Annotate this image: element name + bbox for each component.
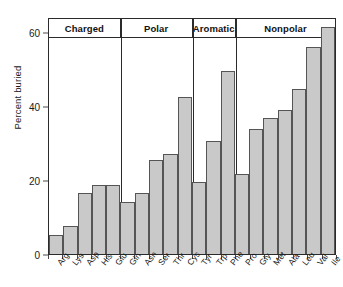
bar-trp: [206, 141, 220, 254]
x-tick-label-val: Val: [315, 252, 330, 267]
bar-cell-trp: [206, 19, 220, 254]
bar-chart-figure: Percent buried 0204060 ChargedPolarAroma…: [0, 0, 343, 287]
bar-tyr: [192, 182, 206, 254]
bar-thr: [163, 154, 177, 254]
bar-cell-gln: [120, 19, 134, 254]
bar-cell-met: [263, 19, 277, 254]
bar-cell-arg: [49, 19, 63, 254]
plot-area: ChargedPolarAromaticNonpolar: [48, 18, 336, 255]
bar-cell-thr: [163, 19, 177, 254]
bar-leu: [292, 89, 306, 254]
bar-cell-gly: [249, 19, 263, 254]
x-axis-labels: ArgLysAspHisGluGlnAsnSerThrCysTyrTrpPheP…: [48, 255, 336, 287]
bar-cell-ala: [278, 19, 292, 254]
bar-cell-phe: [221, 19, 235, 254]
x-tick-label-ile: Ile: [329, 254, 342, 267]
bar-gln: [120, 202, 134, 254]
bar-ala: [278, 110, 292, 254]
y-tick-label-20: 20: [29, 175, 40, 186]
bar-cell-tyr: [192, 19, 206, 254]
bar-cell-ser: [149, 19, 163, 254]
bar-cys: [178, 97, 192, 254]
bar-series: [49, 19, 335, 254]
bar-cell-pro: [235, 19, 249, 254]
bar-gly: [249, 129, 263, 254]
y-axis-ticks: 0204060: [0, 0, 48, 287]
y-tick-label-60: 60: [29, 27, 40, 38]
bar-cell-ile: [321, 19, 335, 254]
bar-asp: [78, 193, 92, 254]
bar-cell-leu: [292, 19, 306, 254]
bar-phe: [221, 71, 235, 254]
bar-val: [306, 47, 320, 254]
bar-pro: [235, 174, 249, 254]
bar-ile: [321, 27, 335, 254]
bar-cell-glu: [106, 19, 120, 254]
bar-met: [263, 118, 277, 254]
bar-cell-asp: [78, 19, 92, 254]
x-tick-mark-0: [48, 255, 49, 259]
y-tick-label-0: 0: [34, 250, 40, 261]
bar-cell-asn: [135, 19, 149, 254]
bar-cell-his: [92, 19, 106, 254]
y-tick-label-40: 40: [29, 101, 40, 112]
bar-cell-lys: [63, 19, 77, 254]
bar-cell-cys: [178, 19, 192, 254]
bar-lys: [63, 226, 77, 254]
bar-glu: [106, 185, 120, 254]
bar-asn: [135, 193, 149, 254]
bar-ser: [149, 160, 163, 254]
bar-cell-val: [306, 19, 320, 254]
bar-his: [92, 185, 106, 254]
